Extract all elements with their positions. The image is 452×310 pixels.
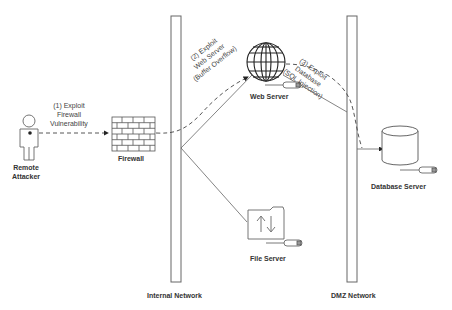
internal-network-bar (171, 16, 181, 282)
attacker-label-line2: Attacker (12, 172, 40, 181)
step1-annotation: (1) Exploit Firewall Vulnerability (50, 101, 88, 128)
step1-line2: Firewall (50, 110, 88, 119)
file-server-label: File Server (250, 255, 286, 262)
person-icon (20, 115, 38, 160)
web-server-label: Web Server (250, 93, 288, 100)
step1-line3: Vulnerability (50, 119, 88, 128)
dmz-network-label: DMZ Network (331, 292, 376, 299)
attacker-label: Remote Attacker (12, 163, 40, 181)
step1-line1: (1) Exploit (50, 101, 88, 110)
internal-network-label: Internal Network (147, 292, 202, 299)
database-server-label: Database Server (371, 183, 426, 190)
folder-transfer-icon (248, 207, 284, 239)
brick-wall-icon (112, 117, 155, 151)
database-server-nic-icon (400, 167, 437, 173)
dmz-network-bar (347, 16, 357, 282)
attacker-label-line1: Remote (12, 163, 40, 172)
firewall-label: Firewall (118, 155, 144, 162)
database-cylinder-icon (382, 126, 418, 165)
globe-icon (247, 43, 285, 81)
file-server-nic-icon (266, 240, 302, 246)
